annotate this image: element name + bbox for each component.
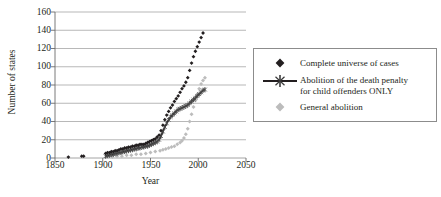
diamond-light-icon [262, 100, 298, 114]
chart-legend: Complete universe of cases Abolition of … [253, 48, 437, 122]
legend-label-complete-universe: Complete universe of cases [300, 58, 434, 69]
chart-figure: 160 140 120 100 80 60 40 20 0 1850 1900 … [0, 0, 441, 197]
diamond-dark-icon [262, 56, 298, 70]
legend-entry-child-offenders: Abolition of the death penalty for child… [254, 74, 438, 99]
legend-label-general-abolition: General abolition [300, 102, 434, 113]
legend-label-child-offenders-line2: for child offenders ONLY [300, 86, 434, 97]
legend-label-child-offenders-line1: Abolition of the death penalty [300, 75, 434, 86]
line-cross-icon [262, 74, 298, 88]
legend-entry-complete-universe: Complete universe of cases [254, 56, 438, 70]
legend-entry-general-abolition: General abolition [254, 100, 438, 114]
